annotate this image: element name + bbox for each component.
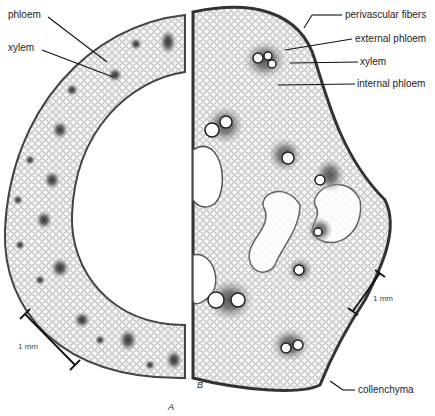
panel-letter-a: A (168, 402, 174, 412)
label-collenchyma: collenchyma (358, 384, 414, 396)
panel-letter-b: B (197, 380, 203, 390)
scale-bar-label-b: 1 mm (373, 294, 393, 303)
label-phloem-a: phloem (8, 9, 41, 21)
stem-cross-section-figure: phloem xylem 1 mm A perivascular fibers … (0, 0, 435, 416)
label-internal-phloem: internal phloem (357, 78, 425, 90)
label-perivascular-fibers: perivascular fibers (345, 9, 426, 21)
label-xylem-a: xylem (8, 42, 34, 54)
label-external-phloem: external phloem (355, 33, 426, 45)
scale-bar-label-a: 1 mm (18, 342, 38, 351)
label-xylem-b: xylem (360, 56, 386, 68)
panel-a-section (5, 15, 185, 378)
